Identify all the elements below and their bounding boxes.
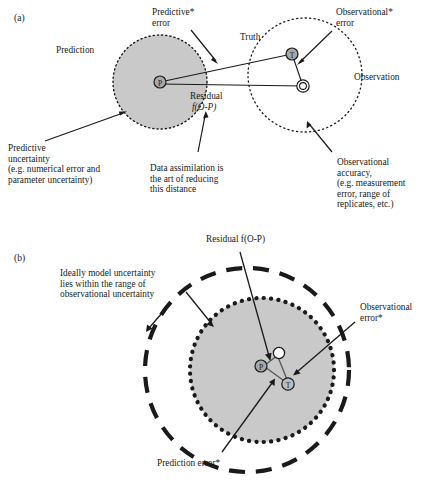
svg-text:P: P bbox=[259, 363, 263, 372]
label-truth: Truth bbox=[240, 32, 260, 43]
label-observational-error-b: Observational error* bbox=[360, 302, 412, 323]
label-residual-b-text: Residual f(O-P) bbox=[206, 234, 265, 244]
prediction-marker: P bbox=[154, 76, 166, 88]
label-residual-a: Residual f(O-P) bbox=[190, 91, 223, 112]
observation-marker bbox=[297, 80, 309, 92]
label-prediction: Prediction bbox=[56, 45, 94, 56]
label-data-assimilation: Data assimilation is the art of reducing… bbox=[150, 163, 223, 195]
svg-text:T: T bbox=[286, 381, 291, 390]
label-predictive-error: Predictive* error bbox=[152, 7, 194, 28]
truth-marker-b: T bbox=[282, 378, 294, 390]
panel-a-id: (a) bbox=[14, 13, 25, 23]
label-residual-a-fn: f(O-P) bbox=[192, 102, 216, 113]
svg-text:P: P bbox=[158, 79, 162, 88]
panel-b: P T bbox=[145, 252, 355, 472]
label-prediction-error-b: Prediction error* bbox=[157, 458, 220, 469]
svg-text:T: T bbox=[290, 51, 295, 60]
observational-accuracy-arrow bbox=[307, 121, 333, 152]
label-residual-b: Residual f(O-P) bbox=[206, 234, 265, 245]
ideally-model-arrow-outer bbox=[146, 305, 169, 332]
prediction-marker-b: P bbox=[255, 360, 267, 372]
ideally-model-arrow-inner bbox=[186, 292, 214, 327]
panel-b-id: (b) bbox=[14, 253, 25, 263]
predictive-uncertainty-arrow bbox=[45, 112, 127, 142]
observation-marker-b bbox=[273, 347, 284, 358]
label-predictive-uncertainty: Predictive uncertainty (e.g. numerical e… bbox=[8, 143, 100, 185]
label-observation: Observation bbox=[354, 72, 399, 83]
label-observational-accuracy: Observational accuracy, (e.g. measuremen… bbox=[337, 157, 405, 210]
observational-accuracy-circle bbox=[248, 18, 362, 132]
panel-a: P T bbox=[45, 18, 362, 152]
truth-marker: T bbox=[286, 48, 298, 60]
data-assimilation-arrow bbox=[198, 111, 209, 152]
observational-error-arrow bbox=[297, 31, 332, 65]
label-residual-a-word: Residual bbox=[190, 91, 223, 101]
label-ideally-model-uncertainty: Ideally model uncertainty lies within th… bbox=[60, 268, 156, 300]
label-observational-error: Observational* error bbox=[336, 7, 393, 28]
